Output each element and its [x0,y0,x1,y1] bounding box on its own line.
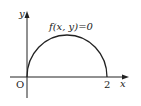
origin-label: O [16,79,24,90]
x-axis-label: x [120,78,126,89]
y-axis-label: y [18,8,25,19]
semicircle-curve [27,35,107,77]
y-axis-arrow-icon [25,11,30,18]
curve-label: f(x, y)=0 [48,21,94,32]
semicircle-diagram: y f(x, y)=0 O 2 x [0,0,141,106]
x-tick-label-2: 2 [104,79,110,90]
